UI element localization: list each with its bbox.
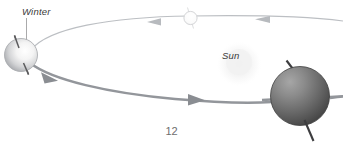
far-orbit-arrow-left	[147, 18, 161, 25]
page-number: 12	[0, 125, 343, 137]
near-orbit-arrow-mid	[188, 94, 205, 106]
orbit-diagram: Winter Sun 12	[0, 0, 343, 150]
earth-winter-position	[5, 18, 38, 75]
sun-label: Sun	[222, 50, 240, 61]
earth-far-position	[184, 8, 197, 29]
sun-body	[216, 41, 262, 87]
far-orbit-arrow-right	[255, 16, 270, 23]
winter-label: Winter	[22, 6, 51, 17]
